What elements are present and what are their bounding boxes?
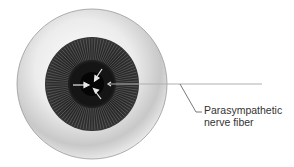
label-line-2: nerve fiber	[204, 116, 282, 128]
label-line-1: Parasympathetic	[204, 104, 282, 116]
parasympathetic-nerve-fiber-label: Parasympathetic nerve fiber	[204, 104, 282, 128]
leader-line	[180, 84, 202, 112]
eye-diagram	[0, 0, 294, 167]
